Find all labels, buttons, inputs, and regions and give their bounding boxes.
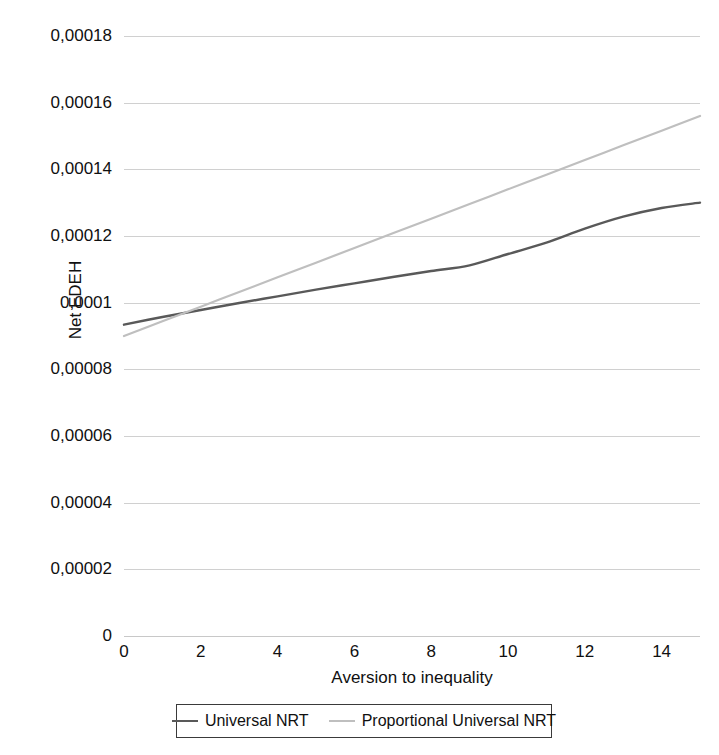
y-axis-tick-label: 0,00018 <box>51 27 112 44</box>
legend-label: Proportional Universal NRT <box>362 712 556 730</box>
x-axis-tick-labels: 02468101214 <box>124 642 700 666</box>
x-axis-tick-label: 2 <box>196 642 205 662</box>
y-axis-title: Net EDEH <box>66 230 86 370</box>
y-axis-tick-label: 0,00006 <box>51 427 112 444</box>
x-axis-tick-label: 8 <box>426 642 435 662</box>
x-axis-tick-label: 6 <box>350 642 359 662</box>
legend-line-icon <box>172 720 198 722</box>
gridline-y <box>124 636 700 637</box>
legend-entry[interactable]: Universal NRT <box>172 712 309 730</box>
series-line <box>124 116 700 336</box>
x-axis-tick-label: 4 <box>273 642 282 662</box>
chart-figure: 00,000020,000040,000060,000080,00010,000… <box>0 0 719 755</box>
y-axis-tick-label: 0,00002 <box>51 560 112 577</box>
legend-line-icon <box>329 720 355 722</box>
y-axis-tick-label: 0,00004 <box>51 494 112 511</box>
y-axis-tick-label: 0 <box>103 627 112 644</box>
y-axis-tick-label: 0,00016 <box>51 94 112 111</box>
x-axis-tick-label: 10 <box>499 642 518 662</box>
y-axis-tick-labels: 00,000020,000040,000060,000080,00010,000… <box>0 36 112 636</box>
legend-entry[interactable]: Proportional Universal NRT <box>329 712 556 730</box>
chart-legend: Universal NRTProportional Universal NRT <box>176 704 552 738</box>
x-axis-tick-label: 0 <box>119 642 128 662</box>
x-axis-tick-label: 12 <box>575 642 594 662</box>
x-axis-title: Aversion to inequality <box>124 668 700 688</box>
plot-area <box>124 36 700 636</box>
series-line <box>124 203 700 325</box>
y-axis-tick-label: 0,00014 <box>51 160 112 177</box>
series-layer <box>124 36 700 636</box>
legend-label: Universal NRT <box>205 712 309 730</box>
x-axis-tick-label: 14 <box>652 642 671 662</box>
